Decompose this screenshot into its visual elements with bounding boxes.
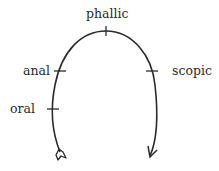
circuit-curve — [52, 31, 157, 156]
label-oral: oral — [10, 101, 35, 116]
label-phallic: phallic — [86, 6, 129, 21]
label-anal: anal — [23, 63, 50, 78]
tail-feather-icon — [56, 149, 66, 160]
label-scopic: scopic — [172, 63, 212, 78]
drive-circuit-diagram: phallic anal oral scopic — [0, 0, 219, 171]
